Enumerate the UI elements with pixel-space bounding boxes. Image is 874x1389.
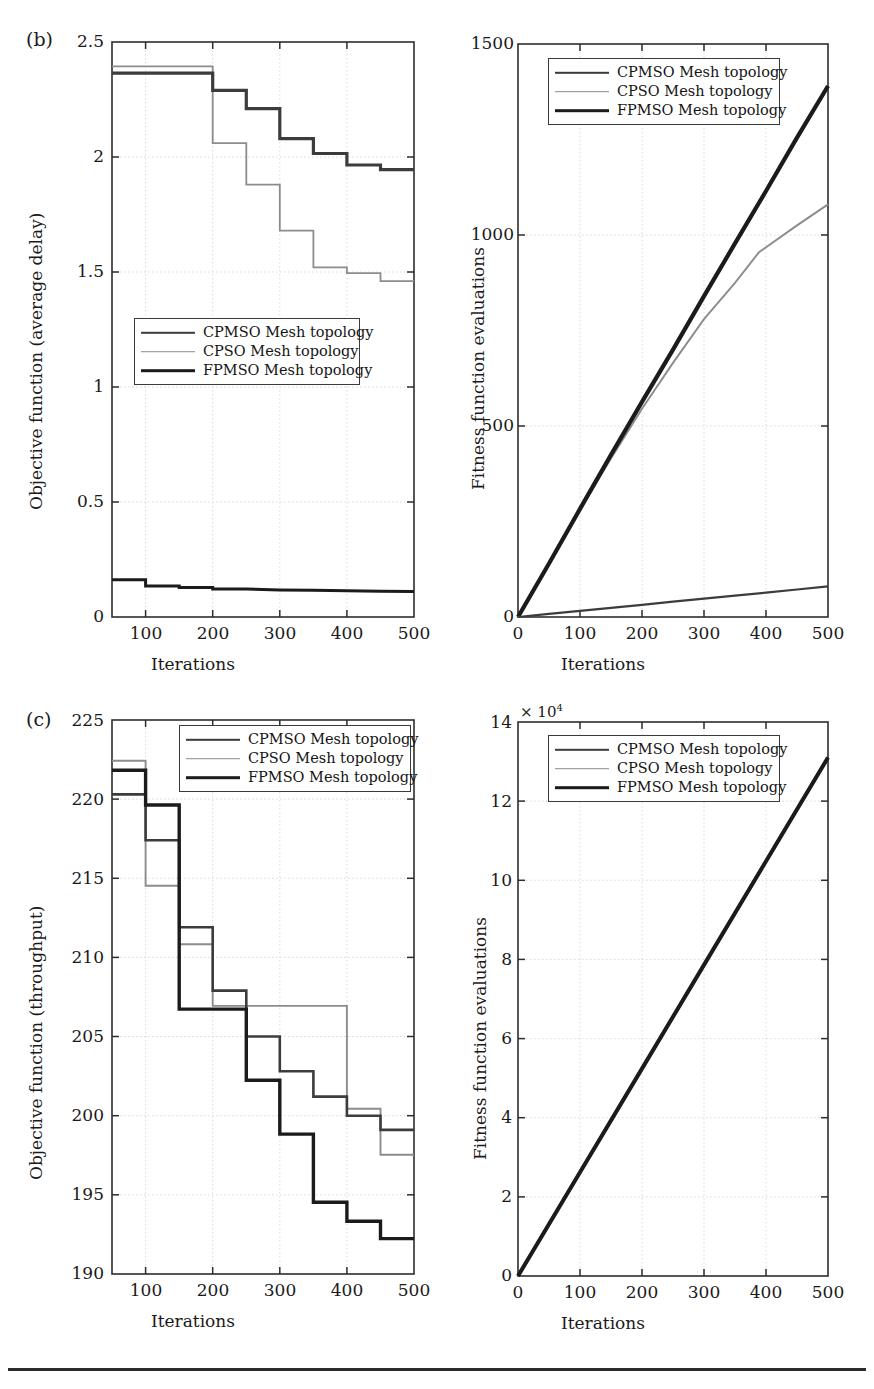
legend-label-fpmso: FPMSO Mesh topology bbox=[617, 778, 786, 797]
series-cpmso-b-fitness bbox=[518, 586, 828, 617]
legend-panel-c-fitness[interactable]: CPMSO Mesh topology CPSO Mesh topology F… bbox=[548, 735, 780, 802]
legend-line-cpmso-icon bbox=[141, 328, 195, 338]
legend-label-fpmso: FPMSO Mesh topology bbox=[617, 101, 786, 120]
legend-label-cpmso: CPMSO Mesh topology bbox=[248, 730, 418, 749]
x-tick-label: 400 bbox=[736, 623, 796, 643]
series-fpmso-b-fitness bbox=[518, 86, 828, 617]
legend-label-cpmso: CPMSO Mesh topology bbox=[617, 740, 787, 759]
x-axis-label-c: Iterations bbox=[123, 1311, 263, 1331]
series-fpmso-b bbox=[112, 580, 414, 592]
series-cpso-b bbox=[112, 66, 414, 281]
x-tick-label: 300 bbox=[674, 623, 734, 643]
legend-label-fpmso: FPMSO Mesh topology bbox=[248, 768, 417, 787]
legend-label-cpmso: CPMSO Mesh topology bbox=[617, 63, 787, 82]
x-tick-label: 300 bbox=[249, 623, 311, 643]
legend-item-fpmso[interactable]: FPMSO Mesh topology bbox=[186, 768, 402, 787]
x-tick-label: 200 bbox=[612, 623, 672, 643]
page-bottom-rule bbox=[8, 1368, 866, 1371]
panel-b-fitness: Fitness function evaluations 1500 1000 5… bbox=[440, 0, 874, 690]
x-tick-label: 500 bbox=[798, 1282, 858, 1302]
x-tick-label: 200 bbox=[182, 623, 244, 643]
x-tick-label: 300 bbox=[249, 1280, 311, 1300]
legend-line-cpso-icon bbox=[555, 764, 609, 774]
legend-label-cpso: CPSO Mesh topology bbox=[248, 749, 404, 768]
panel-c-fitness: Fitness function evaluations × 104 14 12… bbox=[440, 690, 874, 1350]
x-tick-label: 300 bbox=[674, 1282, 734, 1302]
legend-line-fpmso-icon bbox=[555, 783, 609, 793]
legend-item-cpmso[interactable]: CPMSO Mesh topology bbox=[186, 730, 402, 749]
legend-label-cpso: CPSO Mesh topology bbox=[617, 82, 773, 101]
x-tick-label: 100 bbox=[550, 1282, 610, 1302]
legend-label-cpmso: CPMSO Mesh topology bbox=[203, 323, 373, 342]
legend-line-cpmso-icon bbox=[555, 68, 609, 78]
legend-item-fpmso[interactable]: FPMSO Mesh topology bbox=[141, 361, 351, 380]
legend-item-cpso[interactable]: CPSO Mesh topology bbox=[186, 749, 402, 768]
legend-item-cpso[interactable]: CPSO Mesh topology bbox=[555, 82, 771, 101]
legend-label-cpso: CPSO Mesh topology bbox=[203, 342, 359, 361]
x-tick-label: 400 bbox=[316, 1280, 378, 1300]
figure-container: (b) Objective function (average delay) 2… bbox=[0, 0, 874, 1389]
x-tick-label: 100 bbox=[550, 623, 610, 643]
x-axis-label-b-fitness: Iterations bbox=[533, 654, 673, 674]
series-cpmso-b bbox=[112, 73, 414, 170]
x-tick-label: 400 bbox=[316, 623, 378, 643]
legend-line-fpmso-icon bbox=[555, 106, 609, 116]
x-tick-label: 200 bbox=[182, 1280, 244, 1300]
x-tick-label: 100 bbox=[115, 623, 177, 643]
x-tick-label: 100 bbox=[115, 1280, 177, 1300]
x-tick-label: 200 bbox=[612, 1282, 672, 1302]
legend-line-cpso-icon bbox=[555, 87, 609, 97]
legend-line-cpmso-icon bbox=[555, 745, 609, 755]
legend-panel-c[interactable]: CPMSO Mesh topology CPSO Mesh topology F… bbox=[179, 725, 411, 792]
x-tick-label: 0 bbox=[488, 623, 548, 643]
x-tick-label: 500 bbox=[798, 623, 858, 643]
series-cpso-b-fitness bbox=[518, 204, 828, 617]
legend-line-cpmso-icon bbox=[186, 735, 240, 745]
legend-item-cpso[interactable]: CPSO Mesh topology bbox=[555, 759, 771, 778]
legend-line-cpso-icon bbox=[186, 754, 240, 764]
legend-item-fpmso[interactable]: FPMSO Mesh topology bbox=[555, 101, 771, 120]
legend-item-cpso[interactable]: CPSO Mesh topology bbox=[141, 342, 351, 361]
x-tick-label: 0 bbox=[488, 1282, 548, 1302]
legend-label-fpmso: FPMSO Mesh topology bbox=[203, 361, 372, 380]
legend-panel-b-fitness[interactable]: CPMSO Mesh topology CPSO Mesh topology F… bbox=[548, 58, 780, 125]
legend-panel-b[interactable]: CPMSO Mesh topology CPSO Mesh topology F… bbox=[134, 318, 360, 385]
legend-item-cpmso[interactable]: CPMSO Mesh topology bbox=[141, 323, 351, 342]
panel-c-objective: (c) Objective function (throughput) 225 … bbox=[0, 690, 440, 1350]
legend-line-cpso-icon bbox=[141, 347, 195, 357]
legend-item-cpmso[interactable]: CPMSO Mesh topology bbox=[555, 63, 771, 82]
legend-line-fpmso-icon bbox=[186, 773, 240, 783]
x-tick-label: 500 bbox=[383, 623, 445, 643]
panel-b-objective: (b) Objective function (average delay) 2… bbox=[0, 0, 440, 690]
x-tick-label: 500 bbox=[383, 1280, 445, 1300]
x-axis-label-b: Iterations bbox=[123, 654, 263, 674]
legend-label-cpso: CPSO Mesh topology bbox=[617, 759, 773, 778]
x-tick-label: 400 bbox=[736, 1282, 796, 1302]
legend-item-cpmso[interactable]: CPMSO Mesh topology bbox=[555, 740, 771, 759]
x-axis-label-c-fitness: Iterations bbox=[533, 1313, 673, 1333]
legend-item-fpmso[interactable]: FPMSO Mesh topology bbox=[555, 778, 771, 797]
series-fpmso-c-fitness bbox=[518, 758, 828, 1277]
legend-line-fpmso-icon bbox=[141, 366, 195, 376]
